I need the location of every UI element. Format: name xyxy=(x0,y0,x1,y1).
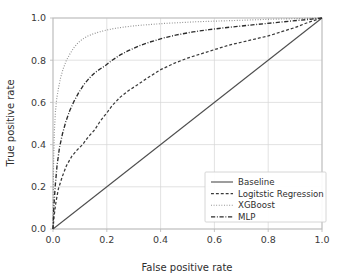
x-tick-label: 1.0 xyxy=(314,234,329,245)
legend-label-logitstic-regression: Logitstic Regression xyxy=(238,189,324,199)
chart-legend[interactable]: BaselineLogitstic RegressionXGBoostMLP xyxy=(205,172,326,222)
y-tick-label: 1.0 xyxy=(31,12,46,23)
y-tick-label: 0.4 xyxy=(31,139,46,150)
chart-canvas: 0.00.20.40.60.81.0 0.00.20.40.60.81.0 Fa… xyxy=(0,0,346,280)
y-axis-title: True positive rate xyxy=(5,79,16,167)
x-tick-label: 0.6 xyxy=(207,234,222,245)
y-tick-label: 0.8 xyxy=(31,55,46,66)
y-tick-label: 0.2 xyxy=(31,181,46,192)
y-tick-label: 0.0 xyxy=(31,223,46,234)
x-tick-labels: 0.00.20.40.60.81.0 xyxy=(45,234,329,245)
x-tick-label: 0.0 xyxy=(45,234,60,245)
roc-curve-figure: 0.00.20.40.60.81.0 0.00.20.40.60.81.0 Fa… xyxy=(0,0,346,280)
x-axis-title: False positive rate xyxy=(142,262,233,273)
y-tick-label: 0.6 xyxy=(31,97,46,108)
legend-label-mlp: MLP xyxy=(238,212,255,222)
y-tick-labels: 0.00.20.40.60.81.0 xyxy=(31,12,46,234)
x-tick-label: 0.8 xyxy=(261,234,276,245)
legend-label-baseline: Baseline xyxy=(238,177,274,187)
x-tick-label: 0.2 xyxy=(99,234,114,245)
legend-label-xgboost: XGBoost xyxy=(238,200,275,210)
x-tick-label: 0.4 xyxy=(153,234,168,245)
